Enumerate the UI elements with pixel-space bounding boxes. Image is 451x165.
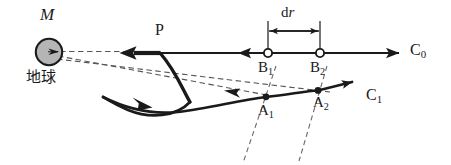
radial-dashed-lines-group [243, 66, 327, 163]
marker-b1 [264, 49, 272, 57]
dr-measure-group [268, 21, 320, 48]
c1-main-curve [103, 91, 318, 113]
marker-a2 [315, 87, 322, 94]
point-a1-subscript: 1 [269, 109, 274, 120]
point-b1-letter: B [258, 59, 268, 75]
point-a2-label: A2 [313, 95, 329, 112]
mass-label: M [40, 6, 54, 23]
curve-c1-subscript: 1 [377, 93, 382, 105]
point-b2-subscript: 2 [320, 66, 325, 77]
c1-descending-branch [161, 54, 191, 103]
c1-exit-segment [318, 82, 352, 91]
point-b2-label: B2 [310, 60, 325, 77]
sight-lines-group [57, 52, 330, 97]
marker-b2 [316, 49, 324, 57]
c0-left-arrowhead-icon [120, 46, 137, 59]
diagram-canvas [0, 0, 451, 165]
point-p-label: P [155, 22, 164, 38]
earth-body-group [36, 39, 62, 65]
marker-a1 [263, 93, 270, 100]
point-a2-letter: A [313, 94, 324, 110]
curve-c1-letter: C [366, 86, 377, 103]
dr-label: dr [281, 5, 294, 20]
sight-line-to-a2 [57, 59, 330, 92]
curve-c0-letter: C [410, 41, 421, 58]
curve-c0-label: C0 [410, 42, 426, 60]
point-a1-label: A1 [258, 103, 274, 120]
curve-c0-subscript: 0 [421, 48, 426, 60]
physics-diagram: M 地球 P B1 B2 A1 A2 C0 C1 dr [0, 0, 451, 165]
dr-variable: r [289, 4, 295, 20]
radial-line-b2-a2 [299, 66, 327, 161]
dr-differential: d [281, 4, 289, 20]
earth-label: 地球 [26, 70, 56, 85]
point-b2-letter: B [310, 59, 320, 75]
point-a1-letter: A [258, 102, 269, 118]
point-b1-label: B1 [258, 60, 273, 77]
point-b1-subscript: 1 [268, 66, 273, 77]
c1-mid-arrowhead-icon [224, 89, 240, 98]
sight-line-to-a1 [58, 56, 272, 96]
point-a2-subscript: 2 [324, 101, 329, 112]
curve-c1-label: C1 [366, 87, 382, 105]
